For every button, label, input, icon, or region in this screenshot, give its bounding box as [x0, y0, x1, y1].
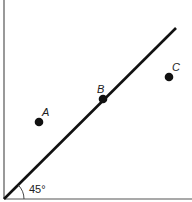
- point-a: [35, 118, 44, 127]
- angle-label: 45°: [29, 183, 46, 195]
- point-c: [165, 73, 174, 82]
- point-b-label: B: [97, 83, 104, 95]
- point-c-label: C: [172, 61, 180, 73]
- angle-arc: [18, 185, 24, 199]
- diagram-canvas: 45° A B C: [0, 0, 192, 202]
- point-b: [99, 95, 108, 104]
- diagonal-line-45deg: [4, 28, 176, 199]
- point-a-label: A: [41, 106, 49, 118]
